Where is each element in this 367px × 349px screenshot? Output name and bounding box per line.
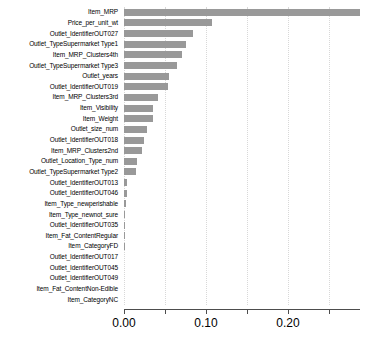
bar xyxy=(124,62,177,69)
category-label: Outlet_size_num xyxy=(71,125,118,133)
bar-row xyxy=(124,241,367,252)
category-label: Outlet_IdentifierOUT045 xyxy=(50,264,118,272)
x-tick-2 xyxy=(206,309,207,314)
bar-row xyxy=(124,135,367,146)
bar-rows xyxy=(124,7,367,305)
bar xyxy=(124,222,125,229)
bar xyxy=(124,200,126,207)
category-label: Outlet_IdentifierOUT046 xyxy=(50,189,118,197)
category-label: Outlet_TypeSupermarket Type1 xyxy=(29,40,118,48)
category-label: Price_per_unit_wt xyxy=(68,19,118,27)
bar-row xyxy=(124,188,367,199)
bar-row xyxy=(124,50,367,61)
category-label: Item_Weight xyxy=(83,115,118,123)
category-axis-labels: Item_MRPPrice_per_unit_wtOutlet_Identifi… xyxy=(0,7,121,305)
bar-row xyxy=(124,71,367,82)
x-tick-5 xyxy=(329,309,330,314)
bar-row xyxy=(124,284,367,295)
bar-row xyxy=(124,252,367,263)
x-tick-4 xyxy=(288,309,289,314)
bar xyxy=(124,243,125,250)
bar xyxy=(124,115,153,122)
bar-row xyxy=(124,124,367,135)
bar-row xyxy=(124,220,367,231)
bar xyxy=(124,41,186,48)
category-label: Item_Fat_ContentRegular xyxy=(46,232,119,240)
bar-row xyxy=(124,82,367,93)
bar-row xyxy=(124,7,367,18)
bar xyxy=(124,190,127,197)
bar-row xyxy=(124,39,367,50)
bar xyxy=(124,211,125,218)
category-label: Item_Visibility xyxy=(80,104,118,112)
category-label: Outlet_IdentifierOUT035 xyxy=(50,221,118,229)
category-label: Outlet_IdentifierOUT027 xyxy=(50,30,118,38)
x-axis-line xyxy=(124,309,360,310)
bar-row xyxy=(124,177,367,188)
category-label: Item_Type_newperishable xyxy=(44,200,118,208)
feature-importance-bar-chart: Item_MRPPrice_per_unit_wtOutlet_Identifi… xyxy=(0,0,367,349)
category-label: Outlet_TypeSupermarket Type2 xyxy=(29,168,118,176)
category-label: Item_MRP_Clusters4th xyxy=(53,51,118,59)
bar-row xyxy=(124,199,367,210)
bar-row xyxy=(124,92,367,103)
bar xyxy=(124,232,125,239)
bar-row xyxy=(124,18,367,29)
bar-row xyxy=(124,273,367,284)
bar xyxy=(124,179,127,186)
category-label: Item_MRP_Clusters2nd xyxy=(51,147,118,155)
bar-row xyxy=(124,113,367,124)
category-label: Item_Type_newnot_sure xyxy=(49,211,118,219)
category-label: Outlet_Location_Type_num xyxy=(41,157,118,165)
bar xyxy=(124,158,137,165)
x-tick-3 xyxy=(247,309,248,314)
category-label: Item_CategoryNC xyxy=(67,296,118,304)
bar xyxy=(124,94,158,101)
category-label: Outlet_TypeSupermarket Type3 xyxy=(29,62,118,70)
bar-row xyxy=(124,231,367,242)
x-tick-0 xyxy=(124,309,125,314)
category-label: Item_MRP xyxy=(88,8,118,16)
x-tick-1 xyxy=(165,309,166,314)
x-tick-label: 0.20 xyxy=(276,316,299,330)
bar xyxy=(124,105,153,112)
bar-row xyxy=(124,156,367,167)
bar-row xyxy=(124,145,367,156)
bar-row xyxy=(124,209,367,220)
bar-row xyxy=(124,60,367,71)
bar-row xyxy=(124,262,367,273)
bar-row xyxy=(124,103,367,114)
bar xyxy=(124,51,182,58)
x-tick-label: 0.00 xyxy=(112,316,135,330)
bar-row xyxy=(124,294,367,305)
bar xyxy=(124,168,136,175)
bar xyxy=(124,126,147,133)
bar-row xyxy=(124,167,367,178)
bar-row xyxy=(124,28,367,39)
category-label: Outlet_IdentifierOUT017 xyxy=(50,253,118,261)
bar xyxy=(124,147,142,154)
category-label: Outlet_IdentifierOUT013 xyxy=(50,179,118,187)
category-label: Item_MRP_Clusters3rd xyxy=(52,93,118,101)
bar xyxy=(124,30,193,37)
plot-area xyxy=(124,7,367,305)
bar xyxy=(124,73,169,80)
category-label: Outlet_IdentifierOUT049 xyxy=(50,274,118,282)
category-label: Item_CategoryFD xyxy=(68,242,118,250)
category-label: Outlet_IdentifierOUT019 xyxy=(50,83,118,91)
x-tick-label: 0.10 xyxy=(194,316,217,330)
category-label: Outlet_years xyxy=(82,72,118,80)
category-label: Outlet_IdentifierOUT018 xyxy=(50,136,118,144)
bar xyxy=(124,9,360,16)
bar xyxy=(124,83,168,90)
category-label: Item_Fat_ContentNon-Edible xyxy=(36,285,118,293)
bar xyxy=(124,137,144,144)
bar xyxy=(124,19,212,26)
